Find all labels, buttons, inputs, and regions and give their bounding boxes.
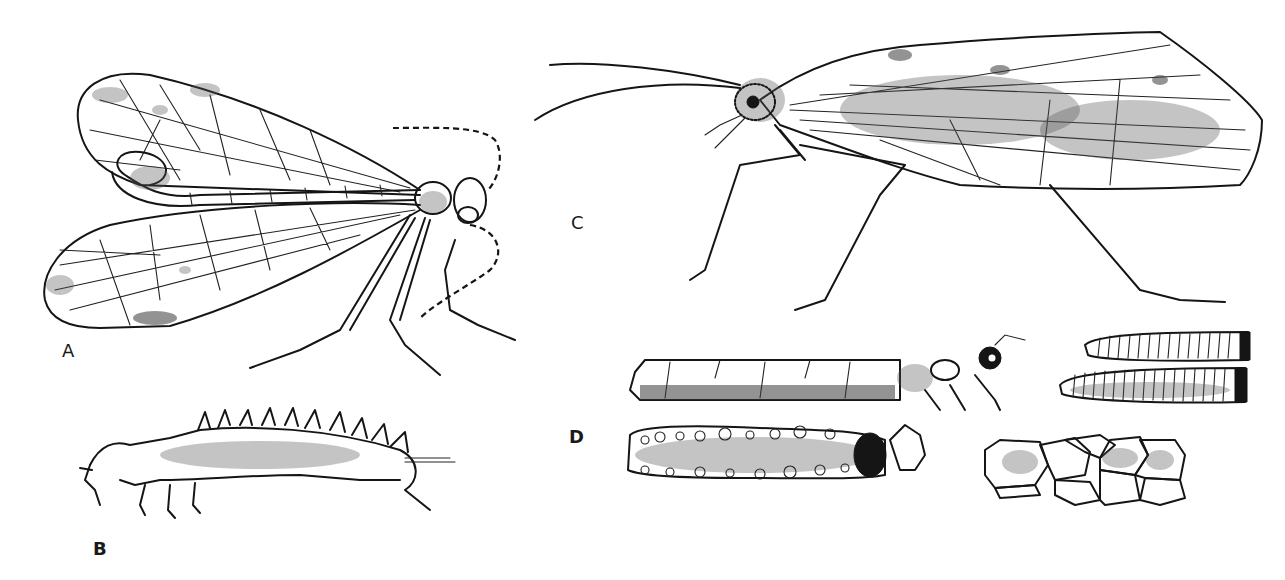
panel-d-larval-cases (628, 332, 1250, 505)
panel-b-larva (80, 408, 455, 518)
panel-c-adult-insect (535, 32, 1262, 310)
illustration-plate: A B C (0, 0, 1285, 580)
panel-a-adult-insect (44, 74, 515, 375)
plate-drawing: A B C (0, 0, 1285, 580)
